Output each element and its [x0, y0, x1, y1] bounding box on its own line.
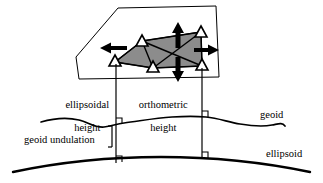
label-orthometric-height-line1: orthometric	[139, 99, 188, 110]
label-ellipsoid: ellipsoid	[266, 148, 322, 160]
label-geoid-undulation: geoid undulation	[24, 134, 118, 146]
label-ellipsoidal-height-line1: ellipsoidal	[65, 99, 109, 110]
label-geoid: geoid	[260, 109, 310, 121]
label-orthometric-height-line2: height	[150, 122, 176, 133]
geodesy-diagram: ellipsoidal height orthometric height ge…	[0, 0, 323, 183]
label-ellipsoidal-height-line2: height	[74, 122, 100, 133]
label-orthometric-height: orthometric height	[122, 87, 194, 145]
